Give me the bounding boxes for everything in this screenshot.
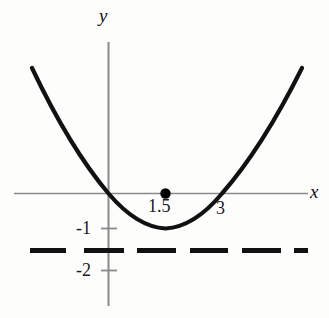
y-tick-label-neg2: -2 xyxy=(76,261,91,279)
plot-canvas xyxy=(0,0,329,318)
x-axis-label: x xyxy=(310,182,318,201)
graph-figure: y x -1 -2 1.5 3 xyxy=(0,0,329,318)
vertex-x-label: 1.5 xyxy=(148,197,171,215)
y-axis-label: y xyxy=(99,6,107,25)
root-x-label: 3 xyxy=(216,199,225,217)
y-tick-label-neg1: -1 xyxy=(76,219,91,237)
